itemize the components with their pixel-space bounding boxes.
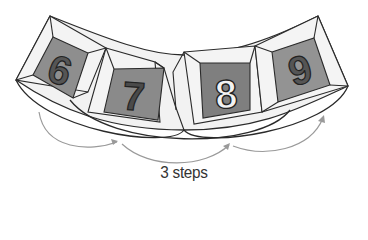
- arrow-7-to-8: [122, 144, 229, 163]
- arrowhead-icon: [318, 115, 325, 123]
- steps-caption: 3 steps: [18, 163, 349, 183]
- digit-7: 7: [121, 73, 146, 118]
- digit-8: 8: [214, 71, 239, 116]
